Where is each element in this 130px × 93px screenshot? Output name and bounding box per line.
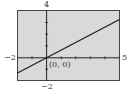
y-min-label: −2 <box>41 83 53 91</box>
x-min-label: −2 <box>4 54 16 62</box>
graph <box>0 0 130 93</box>
x-max-label: 5 <box>122 54 127 62</box>
origin-annotation: (0, 0) <box>49 61 71 69</box>
y-max-label: 4 <box>44 1 49 9</box>
